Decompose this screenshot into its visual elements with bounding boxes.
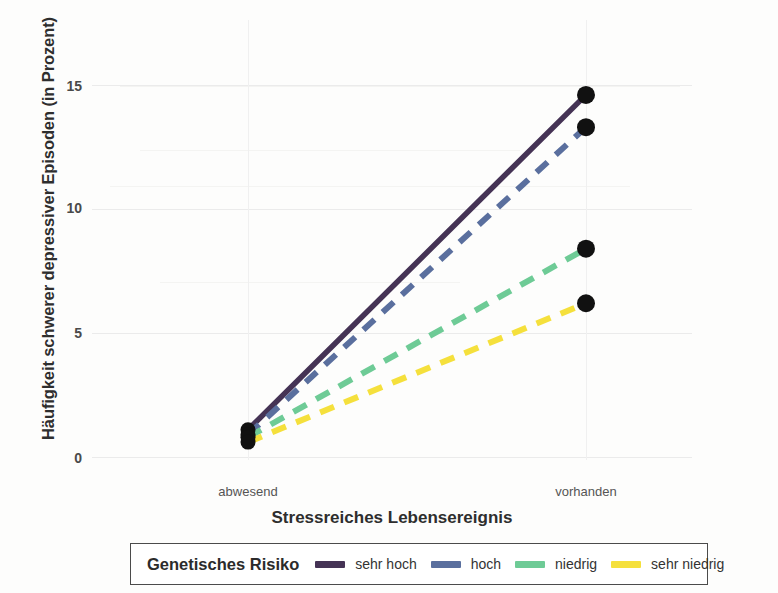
series-line-sehr-niedrig (248, 303, 586, 442)
series-line-hoch (248, 127, 586, 435)
legend-entry-label: hoch (471, 556, 501, 572)
legend-entry-sehr-hoch: sehr hoch (315, 556, 416, 572)
data-point-marker (577, 118, 595, 136)
chart-series-svg (0, 0, 778, 593)
legend-swatch-icon (611, 561, 641, 568)
legend: Genetisches Risiko sehr hochhochniedrigs… (130, 543, 708, 585)
series-line-niedrig (248, 249, 586, 437)
data-point-marker (577, 86, 595, 104)
x-axis-title: Stressreiches Lebensereignis (92, 508, 692, 528)
legend-entry-hoch: hoch (431, 556, 501, 572)
series-line-sehr-hoch (248, 95, 586, 430)
legend-entry-sehr-niedrig: sehr niedrig (611, 556, 724, 572)
legend-entries: sehr hochhochniedrigsehr niedrig (315, 556, 738, 572)
x-tick-label-vorhanden: vorhanden (501, 484, 671, 499)
legend-swatch-icon (315, 561, 345, 568)
legend-title: Genetisches Risiko (147, 555, 299, 574)
legend-entry-label: sehr hoch (355, 556, 416, 572)
legend-swatch-icon (515, 561, 545, 568)
data-point-marker (241, 435, 256, 450)
legend-entry-label: sehr niedrig (651, 556, 724, 572)
x-tick-label-abwesend: abwesend (163, 484, 333, 499)
legend-entry-label: niedrig (555, 556, 597, 572)
data-point-marker (577, 294, 595, 312)
interaction-plot-figure: Häufigkeit schwerer depressiver Episoden… (0, 0, 778, 593)
legend-entry-niedrig: niedrig (515, 556, 597, 572)
legend-swatch-icon (431, 561, 461, 568)
data-point-marker (577, 240, 595, 258)
